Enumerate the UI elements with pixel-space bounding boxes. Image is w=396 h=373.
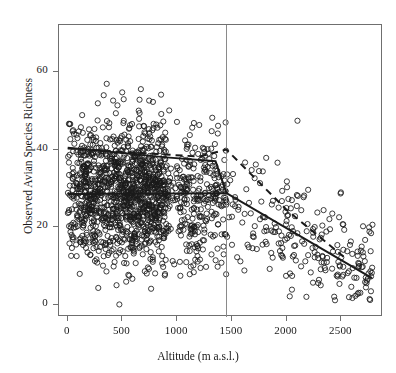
y-axis-title: Observed Avian Species Richness [22, 66, 34, 246]
figure-container: 050010001500200025000204060 Observed Avi… [0, 0, 396, 373]
y-tick-mark [53, 71, 58, 72]
y-tick-label: 0 [18, 296, 48, 308]
y-tick-mark [53, 304, 58, 305]
plot-frame [58, 24, 382, 316]
x-tick-mark [286, 316, 287, 321]
y-tick-mark [53, 226, 58, 227]
x-axis-title: Altitude (m a.s.l.) [0, 350, 396, 362]
x-tick-label: 0 [37, 324, 97, 336]
x-tick-mark [340, 316, 341, 321]
x-tick-mark [176, 316, 177, 321]
x-tick-label: 2500 [310, 324, 370, 336]
y-tick-mark [53, 149, 58, 150]
x-tick-label: 1000 [146, 324, 206, 336]
x-tick-mark [231, 316, 232, 321]
scatter-plot-canvas [59, 25, 383, 317]
x-tick-label: 500 [91, 324, 151, 336]
x-tick-label: 1500 [201, 324, 261, 336]
x-tick-label: 2000 [256, 324, 316, 336]
x-tick-mark [67, 316, 68, 321]
x-tick-mark [121, 316, 122, 321]
